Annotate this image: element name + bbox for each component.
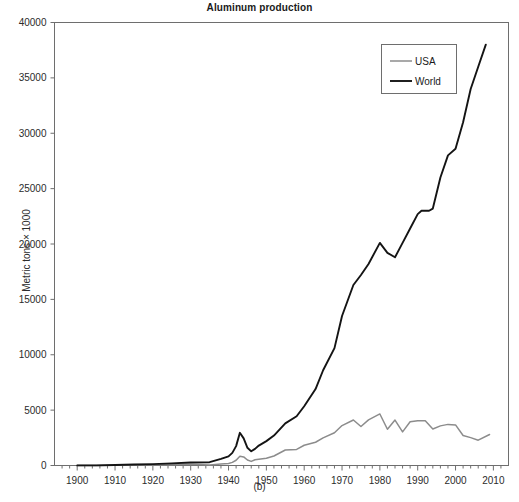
- legend-label-usa: USA: [415, 56, 436, 67]
- y-tick-label-5000: 5000: [24, 405, 47, 416]
- y-tick-label-15000: 15000: [19, 294, 47, 305]
- y-tick-label-0: 0: [41, 460, 47, 471]
- legend-label-world: World: [415, 76, 441, 87]
- y-tick-label-25000: 25000: [19, 183, 47, 194]
- x-axis-sublabel: (b): [0, 481, 519, 492]
- y-tick-label-35000: 35000: [19, 72, 47, 83]
- figure-container: Aluminum production Metric tons × 1000 0…: [0, 0, 519, 502]
- y-tick-label-10000: 10000: [19, 349, 47, 360]
- series-line-usa: [77, 414, 489, 466]
- line-chart-plot: 0500010000150002000025000300003500040000…: [0, 0, 519, 502]
- y-tick-label-40000: 40000: [19, 17, 47, 28]
- y-tick-label-20000: 20000: [19, 239, 47, 250]
- y-tick-label-30000: 30000: [19, 128, 47, 139]
- series-line-world: [77, 45, 486, 466]
